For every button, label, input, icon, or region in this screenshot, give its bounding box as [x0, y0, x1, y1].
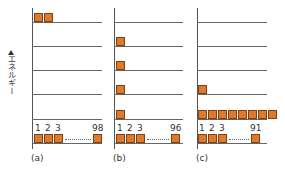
- level-line: [114, 143, 183, 144]
- level-line: [32, 22, 102, 23]
- particle-box: [44, 134, 53, 143]
- particle-box: [34, 13, 43, 22]
- level-line: [114, 22, 183, 23]
- level-line: [32, 143, 102, 144]
- ellipsis-dots: [147, 139, 169, 140]
- panel-c-axis: [197, 8, 198, 149]
- panel-b-label: (b): [113, 153, 126, 163]
- particle-box: [198, 134, 207, 143]
- particle-box: [116, 61, 125, 70]
- level-line: [197, 119, 267, 120]
- particle-box: [171, 134, 180, 143]
- particle-box: [251, 134, 260, 143]
- index-label: 2: [45, 124, 51, 133]
- ellipsis-dots: [229, 139, 249, 140]
- level-line: [114, 70, 183, 71]
- level-line: [32, 46, 102, 47]
- particle-box: [198, 110, 207, 119]
- particle-box: [54, 134, 63, 143]
- particle-box: [198, 85, 207, 94]
- index-label: 1: [35, 124, 41, 133]
- particle-box: [258, 110, 267, 119]
- index-label: 96: [170, 124, 181, 133]
- level-line: [32, 94, 102, 95]
- index-label: 1: [199, 124, 205, 133]
- index-label: 3: [137, 124, 143, 133]
- particle-box: [208, 134, 217, 143]
- panel-b-axis: [114, 8, 115, 149]
- level-line: [114, 119, 183, 120]
- particle-box: [116, 134, 125, 143]
- level-line: [197, 94, 267, 95]
- panel-a-label: (a): [31, 153, 44, 163]
- particle-box: [208, 110, 217, 119]
- particle-box: [116, 37, 125, 46]
- index-label: 98: [92, 124, 103, 133]
- panel-c-label: (c): [196, 153, 208, 163]
- index-label: 3: [219, 124, 225, 133]
- y-axis-label: エネルギー: [6, 55, 16, 95]
- particle-box: [238, 110, 247, 119]
- particle-box: [268, 110, 277, 119]
- particle-box: [44, 13, 53, 22]
- level-line: [114, 94, 183, 95]
- level-line: [114, 46, 183, 47]
- particle-box: [93, 134, 102, 143]
- ellipsis-dots: [65, 139, 91, 140]
- level-line: [32, 70, 102, 71]
- particle-box: [116, 85, 125, 94]
- index-label: 2: [127, 124, 133, 133]
- level-line: [197, 143, 267, 144]
- index-label: 91: [250, 124, 261, 133]
- particle-box: [136, 134, 145, 143]
- level-line: [197, 46, 267, 47]
- particle-box: [34, 134, 43, 143]
- level-line: [32, 119, 102, 120]
- level-line: [197, 22, 267, 23]
- particle-box: [218, 134, 227, 143]
- particle-box: [126, 134, 135, 143]
- index-label: 2: [209, 124, 215, 133]
- particle-box: [218, 110, 227, 119]
- particle-box: [116, 110, 125, 119]
- particle-box: [228, 110, 237, 119]
- index-label: 3: [55, 124, 61, 133]
- panel-a-axis: [32, 8, 33, 149]
- index-label: 1: [117, 124, 123, 133]
- particle-box: [248, 110, 257, 119]
- level-line: [197, 70, 267, 71]
